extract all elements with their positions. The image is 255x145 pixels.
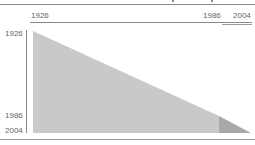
region-1986-2004 xyxy=(219,116,251,133)
region-1926-1986 xyxy=(33,31,219,133)
bottom-rule xyxy=(0,139,255,140)
plot-area xyxy=(0,0,255,145)
